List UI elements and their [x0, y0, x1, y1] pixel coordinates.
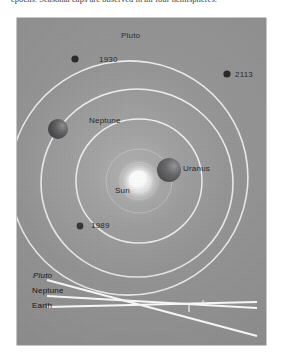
label-uranus: Uranus: [183, 164, 210, 173]
label-pluto-1930: 1930: [99, 55, 118, 64]
label-sun: Sun: [115, 186, 130, 195]
planet-neptune: [48, 119, 68, 139]
inclination-inset: Pluto Neptune Earth: [17, 266, 266, 345]
inset-label-earth: Earth: [32, 301, 52, 310]
caption-strip: epochs. Seasonal caps are observed in al…: [0, 0, 283, 12]
planet-uranus: [157, 158, 181, 182]
inset-label-neptune: Neptune: [32, 286, 64, 295]
inset-label-pluto: Pluto: [33, 271, 52, 280]
label-neptune: Neptune: [89, 116, 121, 125]
pluto-marker-1989: [77, 223, 84, 230]
figure-caption-text: epochs. Seasonal caps are observed in al…: [11, 0, 273, 4]
inclination-inset-svg: [17, 266, 266, 345]
orbit-diagram-panel: Pluto 1930 2113 Neptune Uranus Sun 1989 …: [17, 18, 266, 345]
label-pluto-2113: 2113: [235, 70, 253, 79]
pluto-marker-2113: [223, 70, 230, 77]
inset-line-pluto: [47, 280, 257, 336]
label-pluto-1989: 1989: [91, 221, 110, 230]
pluto-marker-1930: [71, 55, 78, 62]
sun-body: [129, 171, 150, 192]
label-pluto-orbit: Pluto: [121, 31, 140, 40]
